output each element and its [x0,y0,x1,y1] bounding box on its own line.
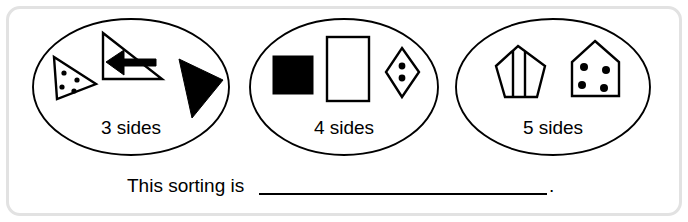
group-4-sides[interactable]: 4 sides [250,19,438,155]
dot [71,88,76,93]
shape-rhombus-with-two-dots [386,48,419,97]
group-label-5-sides: 5 sides [523,117,583,138]
dot [602,66,610,74]
dot [59,84,64,89]
shape-house-pentagon-with-four-dots [572,41,619,96]
shape-solid-black-square [273,56,313,94]
prompt-suffix-text: . [549,175,554,196]
dot [580,63,588,71]
shape-right-triangle-with-left-arrow [103,33,162,79]
group-3-sides[interactable]: 3 sides [33,19,229,155]
dot [578,81,586,89]
prompt-prefix-text: This sorting is [127,175,244,196]
dot [61,70,66,75]
prompt-sentence: This sorting is . [127,175,554,196]
worksheet-canvas: 3 sides 4 sides [0,0,688,222]
group-label-3-sides: 3 sides [101,117,161,138]
dot [600,84,608,92]
shape-triangle-with-four-dots [54,57,96,99]
dot [399,63,406,70]
shape-open-rectangle [327,37,369,101]
shape-solid-black-triangle [179,59,223,118]
dot [74,77,79,82]
group-5-sides[interactable]: 5 sides [456,19,650,155]
group-label-4-sides: 4 sides [314,117,374,138]
sorting-worksheet: 3 sides 4 sides [0,0,688,222]
shape-striped-pentagon [496,46,545,97]
dot [399,75,406,82]
